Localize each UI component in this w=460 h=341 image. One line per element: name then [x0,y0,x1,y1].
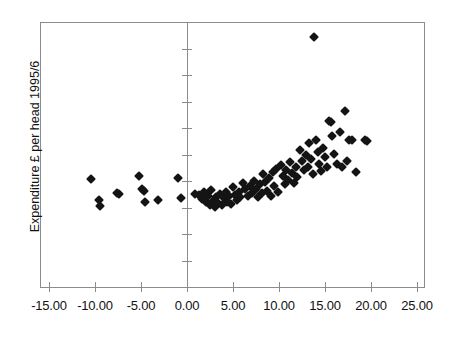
x-tick-mark [141,282,142,292]
y-tick-mark [182,22,192,23]
x-tick-label: 25.00 [387,299,447,313]
y-tick-mark [182,261,192,262]
y-tick-mark [182,102,192,103]
x-tick-mark [417,282,418,292]
y-tick-mark [182,128,192,129]
scatter-chart-figure: Expenditure £ per head 1995/6 0100020003… [0,0,460,341]
y-tick-mark [182,49,192,50]
y-axis-title: Expenditure £ per head 1995/6 [29,37,42,257]
x-tick-mark [325,282,326,292]
x-tick-mark [279,282,280,292]
y-tick-mark [182,234,192,235]
x-tick-mark [187,282,188,292]
x-tick-mark [95,282,96,292]
x-tick-mark [49,282,50,292]
y-tick-mark [182,208,192,209]
y-tick-mark [182,155,192,156]
x-tick-mark [233,282,234,292]
y-tick-mark [182,181,192,182]
plot-area-frame [40,22,425,288]
x-tick-mark [371,282,372,292]
y-tick-mark [182,75,192,76]
